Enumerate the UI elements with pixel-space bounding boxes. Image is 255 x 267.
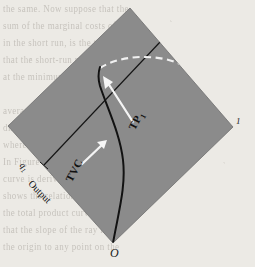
origin-label: O (110, 246, 119, 261)
economics-diagram (0, 0, 255, 267)
scanned-page: the same. Now suppose that thesum of the… (0, 0, 255, 267)
right-vertex-label: 1 (236, 116, 241, 126)
